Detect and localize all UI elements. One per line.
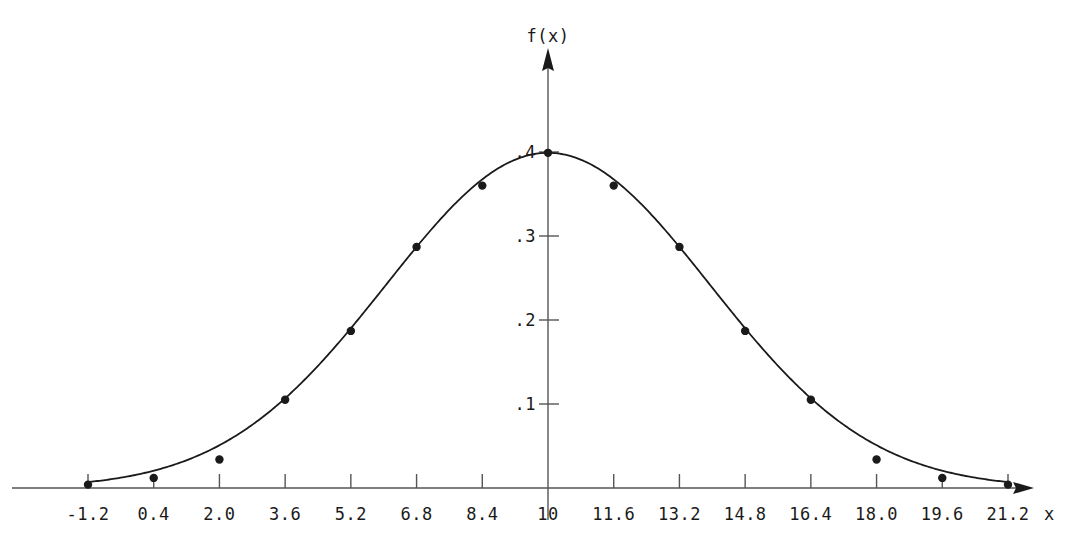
y-tick-label: .2 [508, 310, 536, 330]
x-tick-label: 13.2 [658, 504, 701, 524]
y-tick-label: .3 [508, 226, 536, 246]
x-tick-label: 2.0 [203, 504, 235, 524]
x-tick-label: 8.4 [466, 504, 498, 524]
x-tick-label: 11.6 [592, 504, 635, 524]
x-tick-label: 5.2 [335, 504, 367, 524]
x-tick-label: 18.0 [855, 504, 898, 524]
x-tick-label: 14.8 [724, 504, 767, 524]
y-tick-label: .4 [508, 142, 536, 162]
x-tick-label: 10 [537, 504, 558, 524]
x-axis [12, 482, 1034, 494]
chart-canvas: -1.20.42.03.65.26.88.41011.613.214.816.4… [0, 0, 1087, 544]
x-tick-label: 6.8 [400, 504, 432, 524]
y-axis-tick-marks [539, 152, 559, 404]
x-tick-label: 3.6 [269, 504, 301, 524]
x-tick-label: 21.2 [987, 504, 1030, 524]
x-tick-label: -1.2 [67, 504, 110, 524]
x-tick-label: 19.6 [921, 504, 964, 524]
y-axis-title: f(x) [527, 26, 570, 46]
x-tick-label: 0.4 [138, 504, 170, 524]
x-tick-label: 16.4 [789, 504, 832, 524]
normal-distribution-plot [0, 0, 1087, 544]
y-tick-label: .1 [508, 394, 536, 414]
x-axis-title: x [1044, 504, 1055, 524]
y-axis [542, 48, 554, 520]
